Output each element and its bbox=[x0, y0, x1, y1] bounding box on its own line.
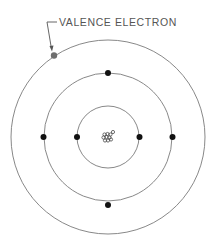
middle-electron-bottom bbox=[105, 202, 111, 208]
middle-electron-left bbox=[41, 134, 47, 140]
middle-electron-right bbox=[170, 134, 176, 140]
arrowhead-icon bbox=[50, 46, 54, 52]
nucleus bbox=[102, 130, 115, 142]
valence-electron bbox=[51, 52, 57, 58]
inner-electron-right bbox=[137, 134, 143, 140]
inner-electron-left bbox=[74, 134, 80, 140]
atom-diagram: VALENCE ELECTRON bbox=[0, 0, 216, 249]
valence-electron-label: VALENCE ELECTRON bbox=[59, 16, 177, 28]
middle-electron-top bbox=[105, 70, 111, 76]
label-leader-arrow bbox=[47, 22, 57, 49]
